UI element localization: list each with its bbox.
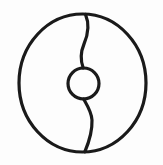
inner-circle xyxy=(68,68,99,99)
outer-circle xyxy=(19,14,146,152)
symbol-drawing: Circular symbol with S-divider and centr… xyxy=(0,0,163,165)
upper-s-curve xyxy=(81,14,88,68)
lower-s-curve xyxy=(84,99,92,152)
figure-canvas: Circular symbol with S-divider and centr… xyxy=(0,0,163,165)
